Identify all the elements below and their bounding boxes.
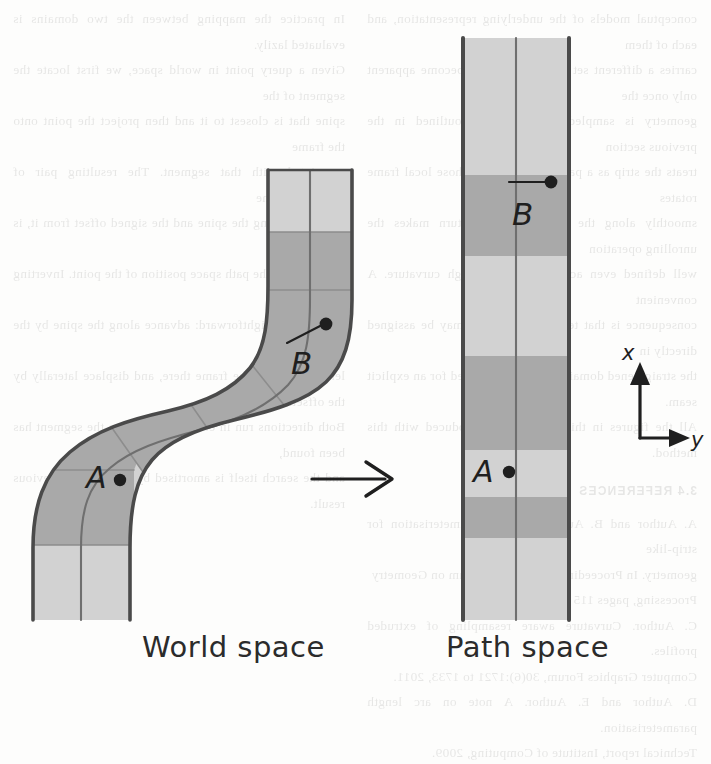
- axis-label-x: x: [621, 341, 635, 365]
- world-space-ribbon: A B World space: [20, 150, 370, 664]
- caption-world-space: World space: [142, 630, 325, 664]
- path-space-ribbon: B A Path space: [446, 38, 609, 664]
- point-label-A-path: A: [471, 454, 494, 489]
- point-label-B-path: B: [512, 196, 533, 232]
- axis-label-y: y: [690, 428, 704, 452]
- caption-path-space: Path space: [446, 630, 609, 664]
- point-marker: [545, 176, 558, 189]
- point-marker: [114, 474, 126, 486]
- point-marker: [503, 466, 515, 478]
- point-marker: [320, 318, 333, 331]
- point-label-B-world: B: [291, 345, 312, 381]
- axis-indicator: x y: [621, 341, 704, 452]
- transform-arrow-icon: [312, 462, 392, 496]
- point-label-A-world: A: [84, 460, 107, 495]
- world-band-light-base: [20, 150, 370, 640]
